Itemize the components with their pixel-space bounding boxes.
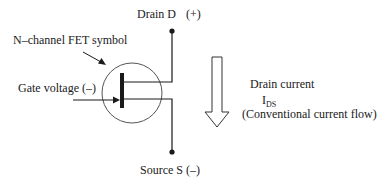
current-flow-arrow-icon [205, 57, 229, 127]
source-lead [124, 99, 172, 152]
drain-terminal-dot [169, 28, 174, 33]
source-polarity-label: (–) [186, 164, 200, 177]
fet-enclosure-circle [102, 63, 162, 123]
drain-polarity-label: (+) [186, 8, 201, 21]
drain-current-label: Drain current [250, 78, 314, 91]
gate-arrow-icon [113, 97, 120, 104]
drain-label: Drain D [137, 8, 176, 21]
conventional-flow-label: (Conventional current flow) [242, 108, 377, 121]
label-pointer-line [83, 52, 101, 62]
gate-channel-bar [120, 73, 124, 108]
source-label: Source S [140, 164, 183, 177]
fet-symbol-label: N–channel FET symbol [13, 34, 127, 47]
source-terminal-dot [169, 149, 174, 154]
drain-lead [124, 31, 172, 82]
gate-voltage-label: Gate voltage (–) [18, 82, 96, 95]
